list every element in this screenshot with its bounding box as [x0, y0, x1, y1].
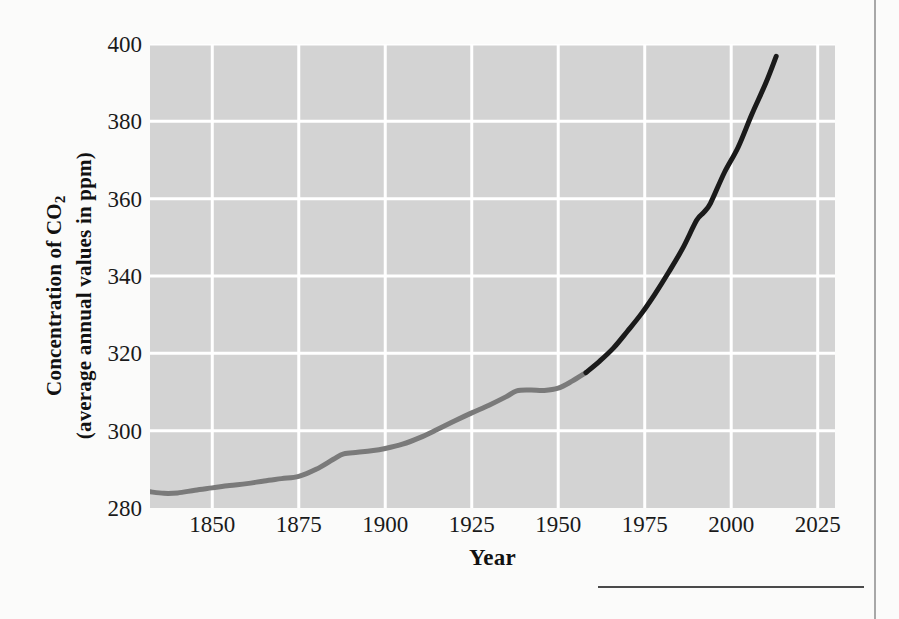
x-tick-label: 2000 — [708, 512, 754, 538]
page-right-border — [874, 0, 876, 619]
x-tick-label: 1925 — [449, 512, 495, 538]
plot-area — [150, 44, 835, 508]
gridlines — [150, 44, 835, 508]
x-tick-label: 1850 — [189, 512, 235, 538]
data-series-line — [150, 373, 586, 494]
y-axis-title: Concentration of CO2 (average annual val… — [42, 36, 97, 556]
data-series-line — [586, 56, 776, 372]
x-axis-title: Year — [150, 545, 835, 571]
x-tick-label: 1950 — [535, 512, 581, 538]
bottom-horizontal-rule — [598, 586, 864, 588]
y-axis-title-line1: Concentration of CO2 — [42, 195, 66, 396]
x-axis-ticks: 18501875190019251950197520002025 — [150, 512, 835, 546]
x-tick-label: 2025 — [795, 512, 841, 538]
y-axis-title-line2: (average annual values in ppm) — [73, 36, 98, 556]
plot-svg — [150, 44, 835, 508]
co2-subscript: 2 — [52, 195, 68, 203]
x-tick-label: 1875 — [276, 512, 322, 538]
page-background: 280300320340360380400 185018751900192519… — [0, 0, 899, 619]
x-tick-label: 1975 — [622, 512, 668, 538]
co2-line-chart-figure: 280300320340360380400 185018751900192519… — [0, 0, 874, 600]
x-tick-label: 1900 — [362, 512, 408, 538]
